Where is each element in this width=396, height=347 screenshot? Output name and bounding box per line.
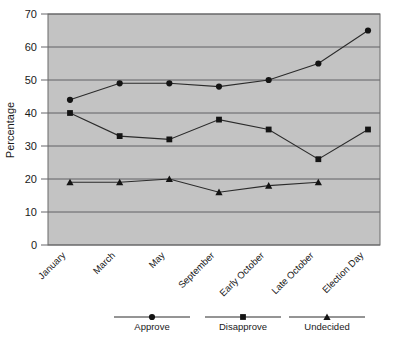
x-axis-label: Early October <box>217 250 266 299</box>
y-tick-label: 40 <box>25 107 37 119</box>
x-axis-category-labels: JanuaryMarchMaySeptemberEarly OctoberLat… <box>36 249 366 298</box>
data-point-marker-square <box>365 127 371 133</box>
data-point-marker-square <box>117 133 123 139</box>
x-axis-label: Election Day <box>320 249 366 295</box>
legend-label: Undecided <box>304 321 349 332</box>
y-tick-label: 30 <box>25 140 37 152</box>
plot-area-background <box>48 14 380 245</box>
data-point-marker-square <box>315 156 321 162</box>
x-axis-label: September <box>176 250 217 291</box>
data-point-marker-square <box>216 117 222 123</box>
x-axis-label: January <box>36 249 68 281</box>
y-tick-label: 10 <box>25 206 37 218</box>
data-point-marker-square <box>67 110 73 116</box>
y-tick-label: 20 <box>25 173 37 185</box>
data-point-marker-square <box>266 127 272 133</box>
data-point-marker-square <box>166 137 172 143</box>
data-point-marker-circle <box>67 97 73 103</box>
data-point-marker-circle <box>166 80 172 86</box>
chart-container: 010203040506070 Percentage JanuaryMarchM… <box>0 0 396 347</box>
y-tick-label: 50 <box>25 74 37 86</box>
data-point-marker-circle <box>365 27 371 33</box>
y-axis-title: Percentage <box>4 102 16 158</box>
data-point-marker-square <box>240 314 246 320</box>
y-axis-tick-marks <box>41 14 48 245</box>
data-point-marker-circle <box>266 77 272 83</box>
chart-legend: ApproveDisapproveUndecided <box>114 313 365 332</box>
line-chart: 010203040506070 Percentage JanuaryMarchM… <box>0 0 396 347</box>
data-point-marker-circle <box>216 84 222 90</box>
x-axis-label: May <box>146 249 167 270</box>
data-point-marker-circle <box>315 60 321 66</box>
y-axis-tick-labels: 010203040506070 <box>25 8 37 251</box>
legend-item-approve[interactable]: Approve <box>114 314 190 332</box>
data-point-marker-circle <box>149 314 155 320</box>
y-tick-label: 0 <box>31 239 37 251</box>
y-tick-label: 60 <box>25 41 37 53</box>
legend-label: Approve <box>134 321 169 332</box>
legend-label: Disapprove <box>219 321 267 332</box>
x-axis-label: March <box>91 250 117 276</box>
x-axis-label: Late October <box>269 250 316 297</box>
legend-item-undecided[interactable]: Undecided <box>289 313 365 332</box>
legend-item-disapprove[interactable]: Disapprove <box>205 314 281 332</box>
data-point-marker-circle <box>117 80 123 86</box>
y-tick-label: 70 <box>25 8 37 20</box>
